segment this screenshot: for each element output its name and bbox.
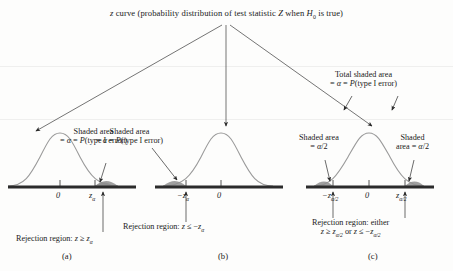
pc-t2-sub: α/2 xyxy=(399,196,406,202)
panel-c-callout-left-line2: = α/2 xyxy=(299,142,339,151)
panel-b-rejection: Rejection region: z ≤ −zα xyxy=(123,222,204,233)
panel-c-tick-negza2: −zα/2 xyxy=(322,191,338,202)
panel-c-rejection: Rejection region: either z ≥ zα/2 or z ≤… xyxy=(312,218,389,238)
pb-rej-rel: ≤ − xyxy=(185,222,198,231)
title-mid: when xyxy=(283,8,307,18)
panel-c-tick-0: 0 xyxy=(365,191,369,200)
pc-r-mid: or xyxy=(343,227,354,236)
panel-b-label: (b) xyxy=(218,252,228,262)
pc-t0-sub: α/2 xyxy=(331,196,338,202)
panel-c-callout-right: Shaded area = α/2 xyxy=(396,133,429,151)
pb-eq2: = xyxy=(107,136,116,145)
title-body: curve (probability distribution of test … xyxy=(113,8,278,18)
panel-a-label: (a) xyxy=(62,252,72,262)
panel-c-callout-top-line1: Total shaded area xyxy=(330,70,397,79)
panel-a-callout-leaders xyxy=(100,163,106,232)
pcl-eq: = xyxy=(310,142,317,151)
pc-eq1: = xyxy=(330,79,337,88)
panel-c-label: (c) xyxy=(368,252,378,262)
pc-rest: (type I error) xyxy=(355,79,397,88)
pa-eq1: = xyxy=(60,136,67,145)
title-tail: is true) xyxy=(316,8,343,18)
panel-c-rejection-line2: z ≥ zα/2 or z ≤ −zα/2 xyxy=(312,227,389,238)
pa-rej-lead: Rejection region: xyxy=(16,234,75,243)
pa-eq2: = xyxy=(71,136,80,145)
panel-c-callout-top: Total shaded area = α = P(type I error) xyxy=(330,70,397,88)
pc-t1: 0 xyxy=(365,191,369,200)
pcr-lead: area = xyxy=(396,142,418,151)
panel-b-curve xyxy=(155,133,283,189)
pa-t1-sub: α xyxy=(92,196,95,202)
panel-a-tick-0: 0 xyxy=(56,191,60,200)
pc-r-sub2: α/2 xyxy=(336,232,343,238)
pb-rej-sub: α xyxy=(201,227,204,233)
panel-b-callout-line2: = α = P(type I error) xyxy=(96,136,163,145)
panel-c-callout-left: Shaded area = α/2 xyxy=(299,133,339,151)
panel-b-tick-negza: −zα xyxy=(177,191,189,202)
pb-rej-lead: Rejection region: xyxy=(123,222,182,231)
pc-t0: −z xyxy=(322,191,331,200)
panel-a-tick-za: zα xyxy=(89,191,95,202)
figure-title: z curve (probability distribution of tes… xyxy=(110,9,343,20)
panel-b-callout: Shaded area = α = P(type I error) xyxy=(96,127,163,145)
pcl-slash: /2 xyxy=(321,142,327,151)
panel-c-callout-left-line1: Shaded area xyxy=(299,133,339,142)
panel-b-callout-line1: Shaded area xyxy=(96,127,163,136)
pc-r-sub4: α/2 xyxy=(373,232,380,238)
pc-r-rel2: ≤ − xyxy=(357,227,370,236)
panel-c-callout-right-line2: area = α/2 xyxy=(396,142,429,151)
pcr-slash: /2 xyxy=(423,142,429,151)
pb-rest: (type I error) xyxy=(121,136,163,145)
panel-c-callout-top-line2: = α = P(type I error) xyxy=(330,79,397,88)
pb-eq1: = xyxy=(96,136,103,145)
title-leader-lines xyxy=(36,25,372,131)
panel-b-tick-0: 0 xyxy=(217,191,221,200)
pb-t0-sub: α xyxy=(186,196,189,202)
pa-rej-sub: α xyxy=(90,239,93,245)
pb-t1: 0 xyxy=(217,191,221,200)
pa-t0: 0 xyxy=(56,191,60,200)
panel-a-rejection: Rejection region: z ≥ zα xyxy=(16,234,93,245)
panel-c-rejection-line1: Rejection region: either xyxy=(312,218,389,227)
panel-c-callout-right-line1: Shaded xyxy=(396,133,429,142)
pc-eq2: = xyxy=(341,79,350,88)
panel-c-tick-za2: zα/2 xyxy=(396,191,407,202)
pb-t0: −z xyxy=(177,191,186,200)
